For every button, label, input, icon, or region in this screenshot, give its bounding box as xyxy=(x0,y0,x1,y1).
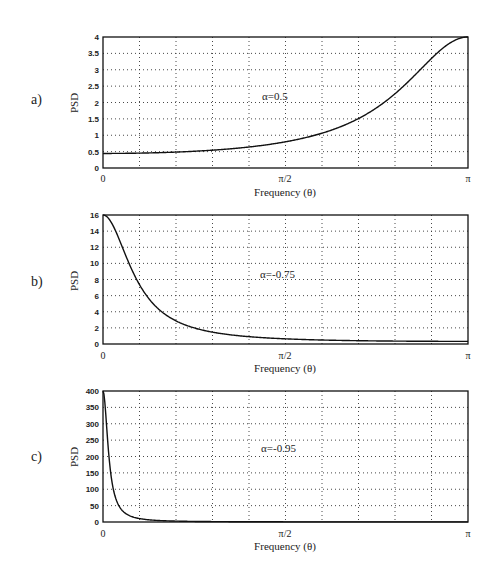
x-tick-0-b: 0 xyxy=(101,350,106,361)
panel-label-b: b) xyxy=(31,274,43,290)
y-tick-label: 4 xyxy=(95,308,100,317)
x-tick-pi-a: π xyxy=(465,173,470,184)
grid-c xyxy=(103,391,468,522)
psd-figure: a) PSD 00.511.522.533.54 α=0.5 0 π/2 π F… xyxy=(0,0,494,573)
y-tick-label: 350 xyxy=(86,403,100,412)
x-tick-pi-b: π xyxy=(465,350,470,361)
y-tick-label: 200 xyxy=(86,453,100,462)
y-tick-label: 3 xyxy=(95,66,100,75)
y-tick-label: 2 xyxy=(95,324,100,333)
y-tick-label: 0.5 xyxy=(88,148,100,157)
x-tick-0-a: 0 xyxy=(101,173,106,184)
x-tick-pi-c: π xyxy=(465,528,470,539)
y-tick-label: 16 xyxy=(90,211,99,220)
y-tick-label: 1.5 xyxy=(88,115,100,124)
y-axis-label-a: PSD xyxy=(68,93,80,113)
y-tick-label: 250 xyxy=(86,436,100,445)
y-tick-label: 2.5 xyxy=(88,82,100,91)
y-tick-label: 300 xyxy=(86,420,100,429)
x-tick-pi-half-a: π/2 xyxy=(279,173,292,184)
y-tick-label: 400 xyxy=(86,387,100,396)
y-tick-label: 3.5 xyxy=(88,49,100,58)
y-ticks-b: 0246810121416 xyxy=(90,211,99,349)
x-axis-label-a: Frequency (θ) xyxy=(254,186,316,199)
x-tick-pi-half-b: π/2 xyxy=(279,350,292,361)
y-ticks-a: 00.511.522.533.54 xyxy=(88,33,100,173)
y-axis-label-b: PSD xyxy=(68,271,80,291)
alpha-annotation-c: α=-0.95 xyxy=(261,442,296,454)
x-tick-pi-half-c: π/2 xyxy=(279,528,292,539)
psd-curve-c xyxy=(103,391,468,522)
panel-label-a: a) xyxy=(31,92,42,108)
x-axis-label-b: Frequency (θ) xyxy=(254,362,316,375)
y-tick-label: 150 xyxy=(86,469,100,478)
y-tick-label: 6 xyxy=(95,292,100,301)
y-tick-label: 4 xyxy=(95,33,100,42)
x-axis-label-c: Frequency (θ) xyxy=(254,540,316,553)
y-axis-label-c: PSD xyxy=(68,447,80,467)
panel-a: a) PSD 00.511.522.533.54 α=0.5 0 π/2 π F… xyxy=(31,33,471,199)
panel-label-c: c) xyxy=(31,449,42,465)
y-tick-label: 14 xyxy=(90,227,99,236)
grid-a xyxy=(103,37,468,168)
plot-frame-c xyxy=(103,391,468,522)
y-tick-label: 50 xyxy=(90,502,99,511)
y-tick-label: 0 xyxy=(95,164,100,173)
y-ticks-c: 050100150200250300350400 xyxy=(86,387,100,527)
y-tick-label: 0 xyxy=(95,518,100,527)
plot-frame-a xyxy=(103,37,468,168)
x-tick-0-c: 0 xyxy=(101,528,106,539)
y-tick-label: 2 xyxy=(95,99,100,108)
y-tick-label: 100 xyxy=(86,485,100,494)
panel-b: b) PSD 0246810121416 α=-0.75 0 π/2 π Fre… xyxy=(31,211,471,375)
alpha-annotation-b: α=-0.75 xyxy=(260,268,295,280)
y-tick-label: 12 xyxy=(90,243,99,252)
y-tick-label: 0 xyxy=(95,340,100,349)
y-tick-label: 8 xyxy=(95,276,100,285)
y-tick-label: 10 xyxy=(90,259,99,268)
panel-c: c) PSD 050100150200250300350400 α=-0.95 … xyxy=(31,387,471,553)
y-tick-label: 1 xyxy=(95,131,100,140)
alpha-annotation-a: α=0.5 xyxy=(262,90,288,102)
